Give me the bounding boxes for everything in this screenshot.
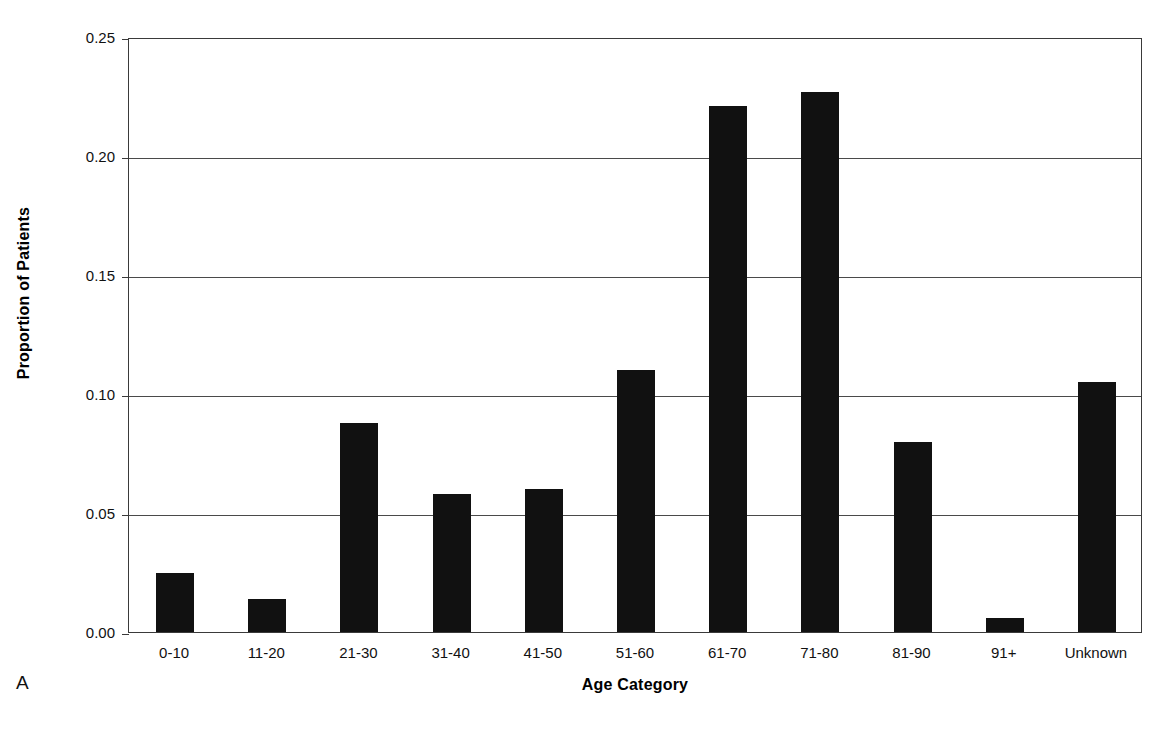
x-axis-tick-label: 61-70	[681, 644, 773, 662]
x-axis-tick-label: 31-40	[405, 644, 497, 662]
y-axis-tick-label: 0.05	[5, 506, 115, 521]
x-axis-tick-label: 81-90	[865, 644, 957, 662]
x-axis-tick-label: 11-20	[220, 644, 312, 662]
x-axis-tick-label: 51-60	[589, 644, 681, 662]
x-axis-tick-label: 91+	[958, 644, 1050, 662]
x-axis-tick-label: 21-30	[312, 644, 404, 662]
x-axis-tick-label: 71-80	[773, 644, 865, 662]
x-axis-tick-label: 0-10	[128, 644, 220, 662]
y-axis-tick-label: 0.25	[5, 30, 115, 45]
y-axis-tick-labels: 0.000.050.100.150.200.25	[0, 0, 1171, 731]
y-axis-title: Proportion of Patients	[15, 143, 33, 443]
figure-panel-a: 0.000.050.100.150.200.25 0-1011-2021-303…	[0, 0, 1171, 731]
x-axis-tick-label: Unknown	[1050, 644, 1142, 662]
y-axis-tick-label: 0.00	[5, 625, 115, 640]
x-axis-tick-labels: 0-1011-2021-3031-4041-5051-6061-7071-808…	[128, 644, 1142, 668]
x-axis-title: Age Category	[128, 676, 1142, 694]
x-axis-tick-label: 41-50	[497, 644, 589, 662]
panel-label: A	[16, 672, 29, 694]
